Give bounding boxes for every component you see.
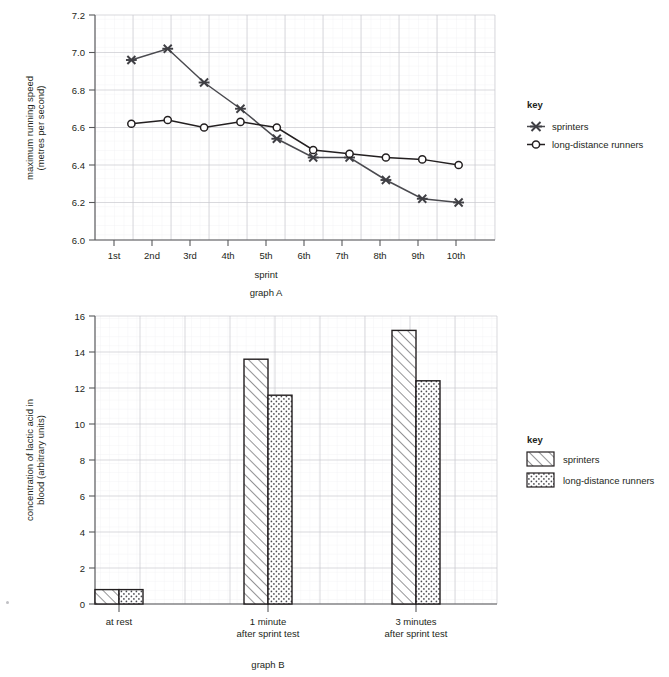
graph-a-y-axis-label-line1: maximum running speed	[24, 76, 35, 180]
graph-b-bar	[392, 330, 416, 604]
graph-b-y-ticklabel: 4	[80, 527, 85, 538]
open-circle-icon	[128, 120, 135, 127]
open-circle-icon	[419, 156, 426, 163]
graph-b-bar-group	[95, 590, 143, 604]
graph-a-y-ticklabel: 6.4	[72, 160, 85, 171]
worksheet-page: 7.2 7.0 6.8 6.6 6.4 6.2 6.0	[0, 0, 669, 677]
graph-b-y-ticklabels: 16 14 12 10 8 6 4 2 0	[74, 311, 85, 610]
graph-a-key-entry-sprinters: sprinters	[527, 121, 589, 132]
graph-a-x-ticklabel: 5th	[259, 250, 272, 261]
graph-a-x-ticklabel: 10th	[447, 250, 466, 261]
graph-b-y-ticklabel: 2	[80, 563, 85, 574]
open-circle-icon	[164, 116, 171, 123]
graph-b-x-ticklabel: after sprint test	[385, 628, 448, 639]
graph-b-bar-group	[244, 359, 292, 604]
graph-b-x-ticklabel: 3 minutes	[395, 616, 436, 627]
graph-b-bar	[416, 381, 440, 604]
graph-b-caption: graph B	[251, 659, 284, 670]
graph-b-y-ticks	[89, 316, 95, 604]
graph-a-x-ticklabel: 3rd	[183, 250, 197, 261]
graph-b-x-ticklabel: at rest	[106, 616, 133, 627]
graph-b-y-ticklabel: 16	[74, 311, 85, 322]
graph-a-x-axis-label: sprint	[254, 269, 278, 280]
graph-a-key-entry-long-distance: long-distance runners	[527, 139, 644, 150]
graph-b-key-label: sprinters	[563, 454, 600, 465]
x-cross-icon	[530, 122, 542, 131]
graph-b-y-ticklabel: 6	[80, 491, 85, 502]
open-circle-icon	[382, 154, 389, 161]
open-circle-icon	[273, 124, 280, 131]
graph-a-svg: 7.2 7.0 6.8 6.6 6.4 6.2 6.0	[0, 0, 669, 300]
graph-b-x-ticklabel: after sprint test	[237, 628, 300, 639]
graph-b-x-ticks	[119, 604, 416, 612]
open-circle-icon	[346, 150, 353, 157]
graph-b-key: key sprinters long-distance runners	[527, 434, 655, 487]
graph-a-y-ticklabels: 7.2 7.0 6.8 6.6 6.4 6.2 6.0	[72, 10, 85, 246]
graph-a-x-ticklabel: 4th	[221, 250, 234, 261]
graph-a-x-ticklabel: 8th	[373, 250, 386, 261]
graph-a-y-ticklabel: 6.8	[72, 85, 85, 96]
open-circle-icon	[532, 141, 539, 148]
graph-b-svg: 16 14 12 10 8 6 4 2 0 at rest 1 minute	[0, 300, 669, 677]
open-circle-icon	[310, 146, 317, 153]
graph-a-y-axis-label: maximum running speed (metres per second…	[24, 76, 46, 180]
graph-b-x-ticklabels: at rest 1 minute after sprint test 3 min…	[106, 616, 448, 639]
graph-a-y-ticklabel: 6.0	[72, 235, 85, 246]
graph-b-bar	[268, 395, 292, 604]
graph-b-y-ticklabel: 0	[80, 599, 85, 610]
open-circle-icon	[237, 118, 244, 125]
hatch-swatch-icon	[527, 452, 554, 466]
graph-b-key-title: key	[527, 434, 544, 445]
dotted-swatch-icon	[527, 473, 554, 487]
open-circle-icon	[455, 161, 462, 168]
graph-a-x-ticklabel: 9th	[411, 250, 424, 261]
graph-b-bar	[119, 590, 143, 604]
graph-b-y-ticklabel: 12	[74, 383, 85, 394]
graph-a-figure: 7.2 7.0 6.8 6.6 6.4 6.2 6.0	[0, 0, 669, 300]
graph-a-x-ticklabel: 2nd	[144, 250, 160, 261]
graph-a-y-ticklabel: 6.6	[72, 122, 85, 133]
graph-a-x-ticks	[114, 240, 456, 246]
graph-a-y-ticks	[89, 15, 95, 240]
graph-b-y-axis-label-line1: concentration of lactic acid in	[24, 399, 35, 521]
graph-a-y-ticklabel: 6.2	[72, 197, 85, 208]
graph-b-y-ticklabel: 8	[80, 455, 85, 466]
graph-a-y-axis-label-line2: (metres per second)	[35, 85, 46, 170]
graph-a-x-ticklabel: 6th	[297, 250, 310, 261]
graph-a-y-ticklabel: 7.0	[72, 47, 85, 58]
graph-a-x-ticklabel: 1st	[108, 250, 121, 261]
open-circle-icon	[200, 124, 207, 131]
graph-a-key-title: key	[527, 99, 544, 110]
graph-a-x-ticklabels: 1st 2nd 3rd 4th 5th 6th 7th 8th 9th 10th	[108, 250, 466, 261]
graph-b-key-label: long-distance runners	[563, 475, 655, 486]
graph-b-bar	[244, 359, 268, 604]
page-speck	[6, 601, 9, 604]
graph-b-y-ticklabel: 14	[74, 347, 85, 358]
graph-a-x-ticklabel: 7th	[335, 250, 348, 261]
graph-b-x-ticklabel: 1 minute	[250, 616, 286, 627]
graph-a-key-label: sprinters	[552, 121, 589, 132]
graph-a-key-label: long-distance runners	[552, 139, 644, 150]
graph-b-y-ticklabel: 10	[74, 419, 85, 430]
graph-a-key: key sprinters long-distance runners	[527, 99, 644, 150]
graph-a-caption: graph A	[250, 287, 283, 298]
graph-b-y-axis-label-line2: blood (arbitrary units)	[35, 415, 46, 505]
graph-b-figure: 16 14 12 10 8 6 4 2 0 at rest 1 minute	[0, 300, 669, 677]
graph-b-key-entry-sprinters: sprinters	[527, 452, 600, 466]
graph-a-y-ticklabel: 7.2	[72, 10, 85, 21]
graph-b-y-axis-label: concentration of lactic acid in blood (a…	[24, 399, 46, 521]
graph-b-bar	[95, 590, 119, 604]
graph-b-key-entry-long-distance: long-distance runners	[527, 473, 655, 487]
